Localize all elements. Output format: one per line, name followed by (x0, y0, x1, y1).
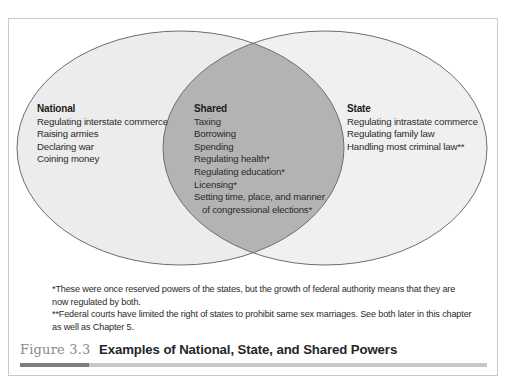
figure-label: Figure 3.3 (20, 342, 91, 357)
footnotes: *These were once reserved powers of the … (52, 283, 472, 333)
footnote-single-asterisk: *These were once reserved powers of the … (52, 283, 472, 308)
state-item: Regulating family law (347, 128, 478, 141)
national-item: Coining money (37, 153, 168, 166)
shared-heading: Shared (194, 103, 325, 116)
shared-powers-list: Shared Taxing Borrowing Spending Regulat… (194, 103, 325, 216)
state-item: Handling most criminal law** (347, 141, 478, 154)
shared-item: Licensing* (194, 179, 325, 192)
shared-item: Setting time, place, and manner (194, 191, 325, 204)
figure-caption: Figure 3.3 Examples of National, State, … (20, 340, 397, 358)
state-powers-list: State Regulating intrastate commerce Reg… (347, 103, 478, 153)
shared-item: Taxing (194, 116, 325, 129)
caption-rule-accent (20, 363, 89, 367)
national-item: Regulating interstate commerce (37, 116, 168, 129)
national-item: Raising armies (37, 128, 168, 141)
caption-rule (89, 363, 487, 367)
footnote-double-asterisk: **Federal courts have limited the right … (52, 308, 472, 333)
national-heading: National (37, 103, 168, 116)
national-powers-list: National Regulating interstate commerce … (37, 103, 168, 166)
national-item: Declaring war (37, 141, 168, 154)
figure-title: Examples of National, State, and Shared … (99, 342, 397, 357)
state-heading: State (347, 103, 478, 116)
shared-item: Regulating education* (194, 166, 325, 179)
shared-item: Borrowing (194, 128, 325, 141)
shared-item: Spending (194, 141, 325, 154)
shared-item: Regulating health* (194, 153, 325, 166)
shared-item: of congressional elections* (194, 204, 325, 217)
state-item: Regulating intrastate commerce (347, 116, 478, 129)
